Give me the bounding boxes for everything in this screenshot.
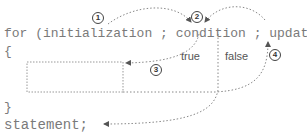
step-4-badge: 4 (269, 49, 281, 61)
step-3-badge: 3 (150, 64, 162, 76)
open-brace: { (4, 45, 12, 58)
step-1-badge: 1 (92, 12, 104, 24)
loop-body-block (27, 62, 123, 92)
for-statement-header: for (initialization ; condition ; update… (4, 27, 307, 40)
true-label: true (181, 51, 200, 62)
step-2-badge: 2 (191, 11, 203, 23)
arrow-init-to-condition (108, 8, 191, 24)
arrow-update-to-condition (205, 7, 265, 22)
close-brace: } (4, 101, 12, 114)
next-statement: statement; (4, 118, 88, 132)
arrow-condition-false-to-statement (104, 34, 218, 124)
false-label: false (225, 51, 248, 62)
